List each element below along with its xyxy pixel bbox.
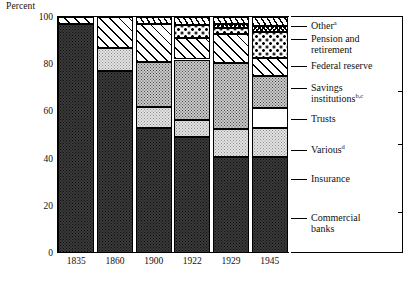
- segment-savings-institutions-1929: [213, 34, 249, 64]
- legend-leader-line: [291, 119, 307, 120]
- segment-other-1929: [213, 17, 249, 24]
- segment-insurance-1900: [136, 107, 172, 128]
- legend: OtheraPension and retirementFederal rese…: [291, 16, 403, 253]
- legend-label: Commercial banks: [307, 212, 360, 234]
- segment-other-1945: [252, 17, 288, 26]
- legend-footnote-marker: b,c: [355, 92, 363, 99]
- legend-leader-line: [291, 218, 307, 219]
- legend-item-various: Variousd: [291, 144, 345, 155]
- legend-leader-line: [291, 179, 307, 180]
- segment-pension-and-retirement-1929: [213, 24, 249, 28]
- segment-other-1922: [174, 17, 210, 25]
- legend-item-insurance: Insurance: [291, 173, 350, 184]
- y-axis-title: Percent: [6, 1, 35, 11]
- legend-label: Othera: [307, 20, 337, 31]
- legend-leader-line: [291, 39, 307, 40]
- bar-group: [57, 17, 289, 253]
- legend-label: Pension and retirement: [307, 33, 360, 55]
- legend-label: Trusts: [307, 113, 336, 124]
- y-tick-label: 100: [39, 12, 58, 22]
- legend-item-other: Othera: [291, 20, 337, 31]
- segment-insurance-1929: [213, 129, 249, 157]
- segment-trusts-1945: [252, 76, 288, 108]
- legend-edge-tick: [398, 212, 403, 213]
- segment-commercial-banks-1900: [136, 128, 172, 253]
- segment-savings-institutions-1945: [252, 58, 288, 76]
- y-tick-label: 60: [44, 106, 59, 116]
- legend-leader-line: [291, 66, 307, 67]
- segment-pension-and-retirement-1945: [252, 26, 288, 32]
- segment-federal-reserve-1929: [213, 28, 249, 34]
- x-tick-label-1945: 1945: [247, 256, 293, 266]
- segment-insurance-1922: [174, 120, 210, 138]
- legend-leader-line: [291, 26, 307, 27]
- segment-trusts-1900: [136, 62, 172, 107]
- segment-insurance-1860: [97, 48, 133, 72]
- legend-edge-tick: [398, 91, 403, 92]
- segment-commercial-banks-1835: [58, 24, 94, 253]
- bar-1929: [213, 17, 249, 253]
- segment-commercial-banks-1945: [252, 157, 288, 253]
- legend-leader-line: [291, 150, 307, 151]
- y-tick-label: 80: [44, 59, 59, 69]
- legend-item-commercial-banks: Commercial banks: [291, 212, 360, 234]
- legend-item-pension-and-retirement: Pension and retirement: [291, 33, 360, 55]
- segment-commercial-banks-1929: [213, 157, 249, 253]
- segment-federal-reserve-1945: [252, 32, 288, 58]
- legend-footnote-marker: d: [342, 143, 345, 150]
- legend-label: Federal reserve: [307, 60, 372, 71]
- legend-edge-tick: [398, 144, 403, 145]
- legend-label: Insurance: [307, 173, 350, 184]
- bar-1922: [174, 17, 210, 253]
- segment-commercial-banks-1860: [97, 71, 133, 253]
- legend-leader-line: [291, 88, 307, 89]
- segment-trusts-1929: [213, 63, 249, 129]
- legend-label: Variousd: [307, 144, 345, 155]
- segment-various-1945: [252, 108, 288, 128]
- stacked-bar-chart: Percent 020406080100 1835186019001922192…: [0, 0, 403, 282]
- legend-item-federal-reserve: Federal reserve: [291, 60, 372, 71]
- legend-footnote-marker: a: [334, 19, 337, 26]
- legend-item-savings-institutions: Savings institutionsb,c: [291, 82, 363, 104]
- y-tick-label: 20: [44, 201, 59, 211]
- segment-savings-institutions-1900: [136, 24, 172, 62]
- segment-other-1900: [136, 17, 172, 24]
- segment-trusts-1922: [174, 60, 210, 120]
- segment-savings-institutions-1922: [174, 38, 210, 59]
- segment-insurance-1945: [252, 128, 288, 158]
- segment-savings-institutions-1835: [58, 17, 94, 24]
- y-tick-label: 40: [44, 154, 59, 164]
- bar-1835: [58, 17, 94, 253]
- segment-commercial-banks-1922: [174, 137, 210, 253]
- bar-1860: [97, 17, 133, 253]
- bar-1900: [136, 17, 172, 253]
- segment-savings-institutions-1860: [97, 17, 133, 48]
- legend-label: Savings institutionsb,c: [307, 82, 363, 104]
- legend-item-trusts: Trusts: [291, 113, 336, 124]
- bar-1945: [252, 17, 288, 253]
- segment-federal-reserve-1922: [174, 25, 210, 38]
